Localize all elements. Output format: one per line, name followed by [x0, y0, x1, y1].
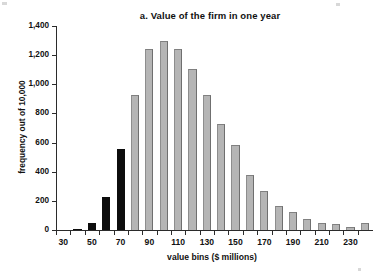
- x-tick-label: 230: [343, 237, 357, 247]
- x-tick-label: 130: [200, 237, 214, 247]
- scan-speck: [358, 268, 361, 271]
- plot-area: 02004006008001,0001,2001,400 30507090110…: [56, 26, 372, 230]
- x-tick: [329, 231, 330, 235]
- x-tick: [70, 231, 71, 235]
- bar: [188, 69, 196, 230]
- x-tick: [358, 231, 359, 235]
- y-axis-label: frequency out of 10,000: [17, 40, 27, 215]
- x-axis-label: value bins ($ millions): [52, 252, 372, 262]
- y-tick-label: 0: [15, 225, 49, 234]
- y-tick: 400: [52, 172, 56, 173]
- x-tick-label: 70: [116, 237, 126, 247]
- bar: [160, 41, 168, 230]
- x-tick: [300, 231, 301, 235]
- x-tick-label: 150: [228, 237, 242, 247]
- histogram-figure: a. Value of the firm in one year frequen…: [0, 0, 383, 274]
- y-tick: 800: [52, 113, 56, 114]
- bar: [231, 145, 239, 230]
- y-axis-line: [56, 26, 57, 231]
- x-tick: [114, 231, 115, 235]
- y-tick: 1,000: [52, 84, 56, 85]
- bar: [346, 227, 354, 230]
- x-tick-label: 210: [315, 237, 329, 247]
- y-tick: 1,400: [52, 26, 56, 27]
- y-tick-label: 1,000: [15, 79, 49, 88]
- y-tick-label: 1,200: [15, 50, 49, 59]
- bar: [131, 95, 139, 230]
- x-tick: [315, 231, 316, 235]
- bar: [117, 149, 125, 230]
- bar: [174, 49, 182, 230]
- bar: [217, 124, 225, 230]
- x-tick: [142, 231, 143, 235]
- x-tick: [85, 231, 86, 235]
- y-tick: 1,200: [52, 55, 56, 56]
- y-tick-label: 600: [15, 138, 49, 147]
- bar: [361, 223, 369, 230]
- y-tick-label: 800: [15, 108, 49, 117]
- x-tick: [171, 231, 172, 235]
- x-tick: [185, 231, 186, 235]
- x-tick: [343, 231, 344, 235]
- scan-speck: [2, 2, 7, 5]
- bar: [88, 223, 96, 230]
- x-tick: [157, 231, 158, 235]
- x-tick-label: 50: [87, 237, 97, 247]
- x-tick-label: 30: [58, 237, 68, 247]
- x-tick: [257, 231, 258, 235]
- bar: [73, 229, 81, 230]
- y-tick-label: 400: [15, 167, 49, 176]
- x-tick: [200, 231, 201, 235]
- x-tick-label: 110: [171, 237, 185, 247]
- x-tick: [228, 231, 229, 235]
- x-tick: [128, 231, 129, 235]
- x-tick-label: 170: [257, 237, 271, 247]
- bar: [303, 219, 311, 230]
- bar: [275, 206, 283, 230]
- x-tick: [56, 231, 57, 235]
- x-tick: [272, 231, 273, 235]
- bar: [102, 197, 110, 230]
- scan-speck: [336, 3, 340, 6]
- x-tick: [99, 231, 100, 235]
- y-tick: 600: [52, 143, 56, 144]
- x-tick-label: 190: [286, 237, 300, 247]
- y-tick-label: 200: [15, 196, 49, 205]
- x-tick: [243, 231, 244, 235]
- chart-title: a. Value of the firm in one year: [60, 10, 360, 21]
- x-tick: [286, 231, 287, 235]
- bar: [203, 95, 211, 230]
- bar: [145, 49, 153, 230]
- bar: [289, 212, 297, 230]
- x-tick-label: 90: [145, 237, 155, 247]
- bar: [318, 223, 326, 230]
- bar: [332, 224, 340, 230]
- bar: [260, 191, 268, 230]
- y-tick: 200: [52, 201, 56, 202]
- x-tick: [214, 231, 215, 235]
- bar: [246, 175, 254, 230]
- y-tick-label: 1,400: [15, 21, 49, 30]
